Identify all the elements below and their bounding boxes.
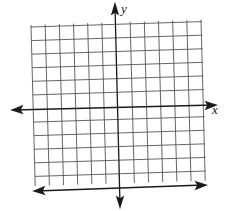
x-axis-line <box>14 105 214 110</box>
grid-vertical-line <box>59 24 63 185</box>
coordinate-plane: y x <box>0 0 226 211</box>
grid-vertical-line <box>187 20 191 181</box>
grid-horizontal-line <box>33 117 204 122</box>
grid-vertical-line <box>144 21 148 182</box>
y-axis-line <box>115 6 120 205</box>
grid-horizontal-line <box>31 35 202 40</box>
grid-horizontal-line <box>34 130 205 135</box>
grid-vertical-line <box>45 25 49 186</box>
grid-horizontal-line <box>35 171 206 176</box>
grid-vertical-line <box>159 21 163 182</box>
grid-horizontal-line <box>34 144 205 149</box>
grid-horizontal-line <box>31 22 202 27</box>
bottom-right-arrow-icon <box>196 182 206 189</box>
grid-horizontal-line <box>32 49 203 54</box>
x-axis-label: x <box>212 103 218 116</box>
grid-vertical-line <box>130 22 134 183</box>
y-axis-down-arrow-icon <box>117 197 123 207</box>
grid-vertical-line <box>201 20 205 181</box>
grid-horizontal-line <box>33 90 204 95</box>
grid-vertical-line <box>173 21 177 182</box>
y-axis-label: y <box>121 2 127 15</box>
grid-horizontal-line <box>35 157 206 162</box>
grid-horizontal-line <box>32 62 203 67</box>
grid-vertical-line <box>88 23 92 184</box>
grid-horizontal-line <box>32 76 203 81</box>
bottom-left-arrow-icon <box>34 187 44 194</box>
y-axis-up-arrow-icon <box>112 4 118 14</box>
grid-vertical-line <box>102 23 106 184</box>
grid-vertical-line <box>74 24 78 185</box>
grid-vertical-line <box>31 25 35 186</box>
grid-svg <box>0 0 226 211</box>
x-axis-left-arrow-icon <box>12 106 22 113</box>
